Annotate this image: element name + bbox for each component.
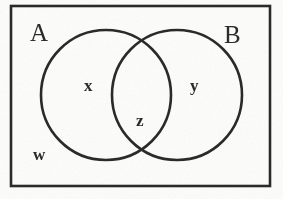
set-b-circle	[112, 30, 242, 160]
region-label-b-only: y	[190, 77, 199, 94]
region-label-a-only: x	[84, 77, 93, 94]
set-label-a: A	[30, 20, 48, 45]
region-label-intersection: z	[136, 112, 144, 129]
region-label-outside: w	[33, 146, 45, 163]
set-label-b: B	[224, 22, 241, 47]
set-a-circle	[41, 30, 171, 160]
venn-diagram-figure: A B x y z w	[0, 0, 283, 199]
